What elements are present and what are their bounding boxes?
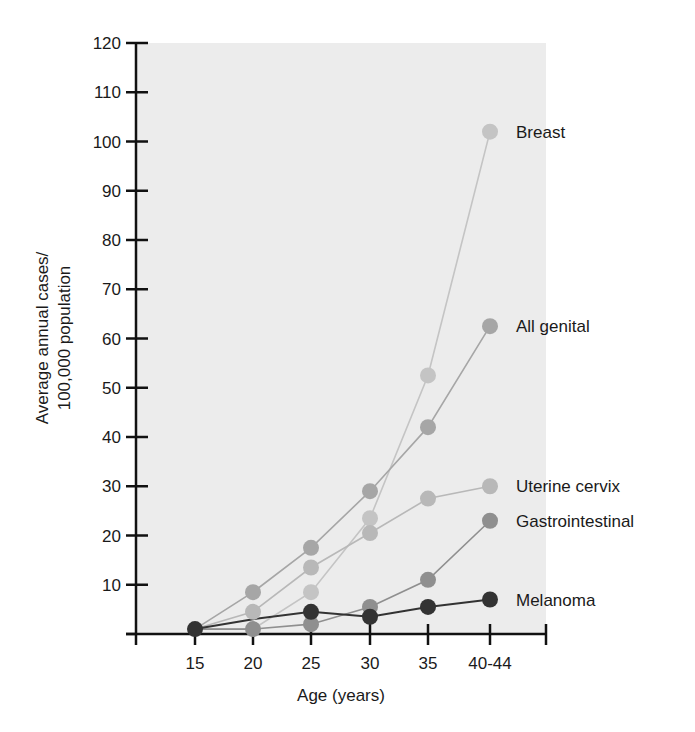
- series-label: All genital: [516, 317, 590, 336]
- series-label: Gastrointestinal: [516, 512, 634, 531]
- y-tick-label: 40: [102, 428, 121, 447]
- data-point: [482, 124, 498, 140]
- y-tick-label: 50: [102, 379, 121, 398]
- data-point: [245, 621, 261, 637]
- y-tick-label: 90: [102, 182, 121, 201]
- series-label: Melanoma: [516, 591, 596, 610]
- y-tick-label: 110: [94, 83, 121, 102]
- y-tick-label: 100: [93, 133, 121, 152]
- y-axis-title-line-1: Average annual cases/: [33, 251, 52, 424]
- data-point: [420, 572, 436, 588]
- x-tick-label: 35: [419, 654, 438, 673]
- y-tick-label: 120: [93, 34, 121, 53]
- data-point: [303, 604, 319, 620]
- data-point: [303, 560, 319, 576]
- x-tick-label: 25: [302, 654, 321, 673]
- x-tick-label: 30: [361, 654, 380, 673]
- data-point: [482, 318, 498, 334]
- y-tick-label: 80: [102, 231, 121, 250]
- data-point: [362, 483, 378, 499]
- data-point: [303, 584, 319, 600]
- x-axis-title: Age (years): [297, 686, 385, 705]
- y-axis-title-line-2: 100,000 population: [55, 266, 74, 411]
- y-tick-label: 20: [102, 527, 121, 546]
- data-point: [303, 540, 319, 556]
- data-point: [187, 621, 203, 637]
- series-label: Breast: [516, 123, 565, 142]
- series-label: Uterine cervix: [516, 477, 620, 496]
- y-tick-label: 10: [102, 576, 121, 595]
- data-point: [245, 584, 261, 600]
- data-point: [362, 510, 378, 526]
- line-chart: 102030405060708090100110120 152025303540…: [0, 0, 695, 732]
- data-point: [362, 525, 378, 541]
- x-tick-label: 40-44: [468, 654, 511, 673]
- data-point: [482, 513, 498, 529]
- y-tick-label: 70: [102, 280, 121, 299]
- data-point: [245, 604, 261, 620]
- x-tick-label: 20: [244, 654, 263, 673]
- data-point: [420, 491, 436, 507]
- y-axis-title: Average annual cases/ 100,000 population: [33, 251, 74, 424]
- data-point: [420, 367, 436, 383]
- data-point: [362, 609, 378, 625]
- x-tick-label: 15: [186, 654, 205, 673]
- data-point: [420, 599, 436, 615]
- y-tick-label: 30: [102, 477, 121, 496]
- data-point: [482, 478, 498, 494]
- data-point: [420, 419, 436, 435]
- data-point: [482, 592, 498, 608]
- y-tick-label: 60: [102, 330, 121, 349]
